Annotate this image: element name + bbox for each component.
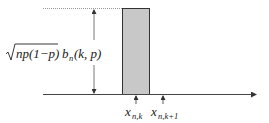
svg-text:n: n	[69, 53, 73, 63]
svg-text:x: x	[150, 104, 157, 119]
svg-text:n,k+1: n,k+1	[158, 111, 178, 121]
diagram-canvas: np(1−p) b n (k, p) x n,k x n,k+1	[0, 0, 269, 123]
tick-label-sub: n,k	[132, 111, 142, 121]
svg-text:x: x	[124, 104, 131, 119]
radicand: np(1−p)	[16, 46, 59, 61]
factor-base: b	[62, 46, 69, 61]
histogram-bar	[123, 9, 150, 95]
factor-arguments: (k, p)	[74, 46, 101, 61]
factor-subscript: n	[69, 53, 73, 63]
svg-text:np(1−p): np(1−p)	[16, 46, 59, 61]
tick-label-xnk: x n,k	[124, 104, 142, 121]
svg-text:b: b	[62, 46, 69, 61]
svg-text:n,k: n,k	[132, 111, 142, 121]
tick-label-xnk1: x n,k+1	[150, 104, 178, 121]
svg-text:(k, p): (k, p)	[74, 46, 101, 61]
tick-label-base: x	[150, 104, 157, 119]
tick-label-sub: n,k+1	[158, 111, 178, 121]
bar-height-label: np(1−p) b n (k, p)	[6, 44, 101, 63]
tick-label-base: x	[124, 104, 131, 119]
